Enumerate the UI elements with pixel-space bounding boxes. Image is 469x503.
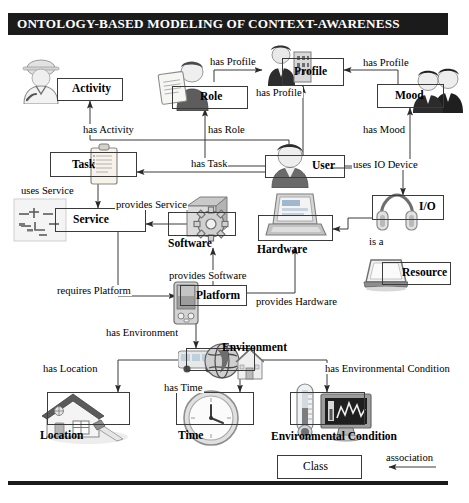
edge-label-uses-io-device: uses IO Device [352, 159, 419, 170]
class-label-envcondition: Environmental Condition [271, 430, 397, 442]
class-box-location[interactable] [47, 392, 130, 425]
edge-label-has-profile-mood: has Profile [362, 57, 410, 68]
diagram-page: ONTOLOGY-BASED MODELING OF CONTEXT-AWARE… [0, 0, 469, 503]
class-label-resource: Resource [402, 266, 447, 278]
class-label-activity: Activity [72, 82, 111, 94]
edge-label-has-task: has Task [190, 158, 228, 169]
edge-label-has-mood: has Mood [362, 124, 406, 135]
edge-label-is-a: is a [368, 236, 384, 247]
class-label-hardware: Hardware [257, 243, 307, 255]
class-label-software: Software [168, 237, 212, 249]
edge-label-provides-software: provides Software [168, 270, 247, 281]
edge-label-has-location: has Location [42, 363, 98, 374]
class-label-mood: Mood [395, 89, 424, 101]
class-label-environment: Environment [222, 341, 287, 353]
class-label-time: Time [178, 429, 203, 441]
class-box-software[interactable] [168, 212, 236, 236]
class-box-envcondition[interactable] [290, 392, 365, 425]
edge-label-provides-service: provides Service [115, 199, 188, 210]
class-label-service: Service [73, 213, 109, 225]
legend-association-label: association [386, 452, 433, 463]
class-label-task: Task [72, 158, 95, 170]
class-label-io: I/O [419, 200, 436, 212]
class-label-location: Location [40, 429, 83, 441]
edge-label-has-env-condition: has Environmental Condition [324, 363, 451, 374]
edge-label-has-activity: has Activity [82, 124, 135, 135]
edge-label-has-role: has Role [207, 124, 246, 135]
edge-label-provides-hardware: provides Hardware [255, 296, 338, 307]
class-box-hardware[interactable] [258, 215, 333, 241]
class-label-profile: Profile [294, 65, 327, 77]
edge-label-has-profile-role: has Profile [209, 56, 257, 67]
edge-label-uses-service: uses Service [20, 185, 75, 196]
legend-class-label: Class [303, 460, 328, 472]
edge-label-has-environment: has Environment [105, 327, 179, 338]
edge-label-has-time: has Time [163, 382, 204, 393]
class-box-time[interactable] [176, 392, 254, 425]
class-label-role: Role [200, 90, 222, 102]
class-label-platform: Platform [196, 289, 240, 301]
edge-label-requires-platform: requires Platform [56, 285, 132, 296]
bottom-rule [8, 481, 448, 485]
edge-label-has-profile-user: has Profile [255, 87, 303, 98]
class-label-user: User [312, 159, 335, 171]
